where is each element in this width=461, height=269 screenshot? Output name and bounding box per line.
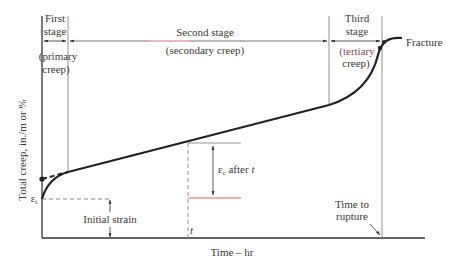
time-to-rupture-annotation: Time to rupture — [335, 198, 380, 235]
intercept-dot — [39, 176, 44, 181]
rupture-label: rupture — [336, 210, 368, 222]
third-stage-title-2: stage — [346, 25, 369, 37]
rupture-pointer-arrow — [370, 224, 380, 235]
third-stage-title: Third — [345, 12, 370, 24]
second-stage-title: Second stage — [176, 26, 234, 38]
epsilon-i-label: εi — [31, 192, 38, 206]
initial-strain-label: Initial strain — [83, 213, 137, 225]
fracture-label: Fracture — [406, 36, 443, 48]
first-stage-desc: (primary — [39, 50, 78, 63]
inflection-dot — [378, 46, 382, 50]
y-axis-title: Total creep, in./m or % — [16, 99, 28, 200]
third-stage-desc-2: creep) — [342, 57, 370, 70]
stage-labels: First stage (primary creep) Second stage… — [39, 12, 375, 76]
fracture-dot — [382, 40, 386, 44]
initial-strain-annotation: εi Initial strain — [31, 192, 138, 237]
x-axis-title: Time – hr — [211, 246, 254, 258]
first-stage-title-2: stage — [44, 25, 67, 37]
epsilon-c-annotation: εc after t t — [188, 143, 255, 238]
epsilon-c-label: εc after t — [218, 163, 255, 177]
first-stage-title: First — [45, 12, 65, 24]
primary-curve — [42, 172, 68, 199]
creep-curve-diagram: First stage (primary creep) Second stage… — [0, 0, 461, 269]
secondary-line — [68, 105, 329, 172]
second-stage-desc: (secondary creep) — [166, 44, 245, 57]
t-marker-label: t — [190, 224, 194, 236]
time-to-label: Time to — [335, 198, 370, 210]
first-stage-desc-2: creep) — [42, 63, 70, 76]
